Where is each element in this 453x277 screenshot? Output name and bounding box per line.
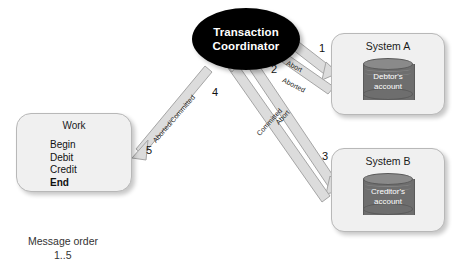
work-title: Work xyxy=(17,120,131,131)
db-label-line2: account xyxy=(363,82,413,92)
work-step-end: End xyxy=(50,177,77,190)
system-b-title: System B xyxy=(332,155,444,167)
caption-range: 1..5 xyxy=(28,248,98,262)
creditor-account-label: Creditor's account xyxy=(363,187,413,207)
sequence-number-2: 2 xyxy=(271,63,277,75)
diagram-canvas: .ribbon { fill: #dcdcdc; stroke: #a5a5a5… xyxy=(0,0,453,277)
work-step-credit: Credit xyxy=(50,164,77,177)
sequence-number-3: 3 xyxy=(322,150,328,162)
work-step-begin: Begin xyxy=(50,139,77,152)
work-node[interactable]: Work Begin Debit Credit End xyxy=(16,113,132,192)
work-steps-list: Begin Debit Credit End xyxy=(50,139,77,189)
work-step-debit: Debit xyxy=(50,152,77,165)
system-a-title: System A xyxy=(332,40,444,52)
arrow-5-result-to-work xyxy=(132,66,212,160)
db-label-line2: account xyxy=(363,197,413,207)
coordinator-label-line1: Transaction xyxy=(213,25,279,39)
db-label-line1: Debtor's xyxy=(363,72,413,82)
debtor-account-label: Debtor's account xyxy=(363,72,413,92)
sequence-number-1: 1 xyxy=(319,42,325,54)
coordinator-label-line2: Coordinator xyxy=(213,39,280,53)
caption-title: Message order xyxy=(28,235,98,247)
debtor-account-database-icon: Debtor's account xyxy=(363,58,413,104)
system-b-node[interactable]: System B Creditor's account xyxy=(331,148,445,232)
message-order-caption: Message order 1..5 xyxy=(28,234,98,262)
creditor-account-database-icon: Creditor's account xyxy=(363,173,413,219)
db-label-line1: Creditor's xyxy=(363,187,413,197)
sequence-number-4: 4 xyxy=(212,86,218,98)
sequence-number-5: 5 xyxy=(146,144,152,156)
transaction-coordinator-node[interactable]: Transaction Coordinator xyxy=(192,8,300,70)
system-a-node[interactable]: System A Debtor's account xyxy=(331,33,445,115)
